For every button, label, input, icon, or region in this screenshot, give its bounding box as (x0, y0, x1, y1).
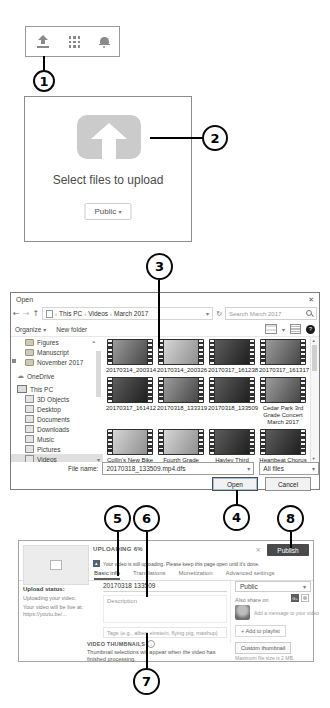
twitter-icon[interactable] (301, 594, 309, 602)
sidebar-item-desktop[interactable]: Desktop (11, 404, 103, 414)
thumbnails-note: Thumbnail selections will appear when th… (87, 649, 233, 662)
files-scrollbar[interactable]: ▴ ▾ (310, 337, 319, 462)
video-thumbnail (158, 429, 204, 455)
sidebar-item-pictures[interactable]: Pictures (11, 444, 103, 454)
google-plus-icon[interactable]: G+ (291, 594, 299, 602)
sidebar-item-3d-objects[interactable]: 3D Objects (11, 394, 103, 404)
callout-line-2 (150, 137, 203, 139)
file-item[interactable]: 20170317_161317 (259, 339, 307, 377)
apps-grid-icon[interactable] (69, 36, 80, 47)
share-message-input[interactable]: Add a message to your video (254, 610, 319, 616)
breadcrumb-this-pc[interactable]: This PC (59, 310, 82, 317)
avatar (235, 605, 250, 620)
sidebar-item-this-pc[interactable]: This PC (11, 384, 103, 394)
dialog-toolbar: Organize ▾ New folder ▾ ? (15, 322, 315, 336)
privacy-dropdown[interactable]: Public ▾ (84, 203, 131, 220)
file-item[interactable]: 20170317_161238 (208, 339, 256, 377)
video-thumbnail (158, 377, 204, 403)
file-item[interactable]: 20170314_200326 (157, 339, 205, 377)
video-thumbnail (107, 429, 153, 455)
callout-3: 3 (146, 253, 173, 280)
privacy-select[interactable]: Public▾ (235, 581, 311, 592)
custom-thumbnail-button[interactable]: Custom thumbnail (235, 642, 291, 654)
chevron-down-icon: ▾ (303, 583, 306, 590)
sidebar-item-figures[interactable]: Figures (11, 337, 103, 347)
sidebar-item-documents[interactable]: Documents (11, 414, 103, 424)
file-type-select[interactable]: All files▾ (259, 462, 319, 475)
upload-icon[interactable] (36, 35, 50, 48)
sidebar-item-manuscript[interactable]: Manuscript (11, 347, 103, 357)
sidebar-scrollbar[interactable] (96, 351, 101, 397)
sidebar-item-downloads[interactable]: Downloads (11, 424, 103, 434)
help-icon[interactable]: ? (306, 325, 315, 334)
file-item[interactable]: Cedar Park 3rd Grade Concert March 2017 (259, 377, 307, 429)
address-bar[interactable]: › This PC › Videos › March 2017 ▾ (42, 307, 213, 320)
chevron-down-icon[interactable]: ▾ (247, 465, 250, 472)
tab-advanced-settings[interactable]: Advanced settings (226, 570, 275, 580)
sidebar-item-music[interactable]: Music (11, 434, 103, 444)
sidebar-item-onedrive[interactable]: ☁OneDrive (11, 371, 103, 381)
this-pc-icon (17, 385, 27, 393)
dropzone-title: Select files to upload (25, 173, 191, 187)
folder-location-icon (46, 310, 53, 318)
custom-thumbnail-note: Maximum file size is 2 MB. (235, 655, 294, 661)
bell-icon[interactable] (99, 36, 110, 48)
file-item[interactable]: Hayley Third Grade Concert Solo March 20… (208, 429, 256, 464)
dialog-body: Figures ▴ Manuscript November 2017 ☁OneD… (11, 336, 319, 462)
callout-4: 4 (223, 504, 250, 531)
new-folder-button[interactable]: New folder (56, 326, 87, 333)
search-input[interactable]: Search March 2017 (225, 307, 317, 320)
tab-monetization[interactable]: Monetization (178, 570, 212, 580)
video-thumbnail (209, 339, 255, 365)
chevron-down-icon: ▾ (43, 326, 46, 333)
tags-input[interactable]: Tags (e.g., albert einstein, flying pig,… (103, 627, 227, 638)
folder-icon (25, 339, 34, 346)
callout-line-6 (146, 532, 148, 597)
refresh-icon[interactable]: ↻ (216, 310, 222, 318)
thumbnail-view-icon[interactable] (265, 324, 277, 334)
title-input[interactable]: 20170318 133509 (103, 581, 227, 592)
callout-line-5 (117, 532, 119, 576)
file-item[interactable]: 20170317_161412 (106, 377, 154, 429)
video-thumbnail (209, 377, 255, 403)
description-input[interactable]: Description (103, 595, 227, 623)
breadcrumb-march-2017[interactable]: March 2017 (114, 310, 148, 317)
file-item[interactable]: Fourth Grade Recorder Recital March 2017 (157, 429, 205, 464)
add-to-playlist-button[interactable]: + Add to playlist (235, 625, 286, 637)
file-name-input[interactable]: 20170318_133509.mp4.dfs▾ (102, 462, 254, 475)
file-item[interactable]: 20170318_133509 (208, 377, 256, 429)
video-thumbnails-heading: VIDEO THUMBNAILS i (87, 640, 155, 648)
up-icon[interactable]: ↑ (32, 309, 39, 318)
close-icon[interactable]: ✕ (308, 296, 314, 304)
address-dropdown-icon[interactable]: ▾ (206, 310, 209, 317)
scroll-up-icon[interactable]: ▴ (313, 338, 315, 343)
view-caret-icon[interactable]: ▾ (282, 326, 285, 333)
sidebar-item-november-2017[interactable]: November 2017 (11, 357, 103, 367)
open-button[interactable]: Open (212, 477, 258, 491)
callout-line-3 (158, 280, 160, 348)
file-item[interactable]: Heartbeat Chorus Concert March 2017 (259, 429, 307, 464)
video-url-link[interactable]: https://youtu.be/... (23, 611, 95, 618)
breadcrumb-videos[interactable]: Videos (88, 310, 108, 317)
callout-7: 7 (133, 668, 160, 695)
close-icon[interactable]: × (255, 546, 261, 554)
file-item[interactable]: 20170314_200314 (106, 339, 154, 377)
tab-translations[interactable]: Translations (133, 570, 165, 580)
upload-arrow-icon[interactable] (77, 115, 141, 159)
video-thumbnail (209, 429, 255, 455)
back-icon[interactable]: ← (13, 309, 20, 318)
publish-button[interactable]: Publish (267, 544, 309, 556)
forward-icon[interactable]: → (23, 309, 30, 318)
tutorial-page: Select files to upload Public ▾ Open ✕ ←… (0, 0, 330, 708)
file-item[interactable]: Collin's New Bike March 2017 (106, 429, 154, 464)
cancel-button[interactable]: Cancel (265, 477, 311, 491)
scroll-up-icon[interactable]: ▴ (92, 338, 95, 344)
organize-button[interactable]: Organize ▾ (15, 326, 46, 333)
chevron-down-icon[interactable]: ▾ (312, 465, 315, 472)
info-circle-icon: i (147, 640, 155, 648)
preview-pane-icon[interactable] (290, 324, 301, 334)
folder-icon (25, 359, 34, 366)
sync-status-icon (12, 359, 16, 363)
file-item[interactable]: 20170318_133319 (157, 377, 205, 429)
video-thumbnail (260, 429, 306, 455)
